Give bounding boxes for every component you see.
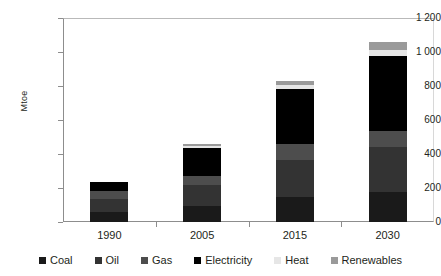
y-axis-tick-mark (58, 222, 63, 223)
x-axis-tick-label: 1990 (69, 229, 149, 241)
bar-1990[interactable] (90, 182, 128, 222)
y-axis-title: Mtoe (19, 71, 29, 131)
bar-segment-renewables (369, 42, 407, 51)
stacked-bar-chart: Mtoe 02004006008001 0001 200 19902005201… (0, 0, 441, 276)
x-axis-tick-mark (156, 222, 157, 227)
legend-label: Heat (285, 255, 308, 266)
legend-label: Gas (152, 255, 172, 266)
chart-legend: CoalOilGasElectricityHeatRenewables (0, 255, 441, 266)
bar-segment-coal (276, 197, 314, 223)
legend-label: Coal (50, 255, 73, 266)
bar-segment-electricity (183, 148, 221, 176)
bar-segment-oil (276, 160, 314, 197)
legend-swatch-icon (141, 257, 148, 264)
bar-segment-oil (369, 147, 407, 192)
legend-swatch-icon (331, 257, 338, 264)
legend-item-coal[interactable]: Coal (39, 255, 73, 266)
bar-segment-gas (369, 131, 407, 147)
legend-swatch-icon (95, 257, 102, 264)
legend-item-electricity[interactable]: Electricity (194, 255, 252, 266)
bar-segment-electricity (276, 89, 314, 144)
bar-segment-coal (369, 192, 407, 222)
x-axis-tick-label: 2005 (162, 229, 242, 241)
bar-segment-electricity (90, 182, 128, 191)
bar-segment-oil (90, 199, 128, 212)
bar-segment-coal (183, 206, 221, 222)
legend-swatch-icon (194, 257, 201, 264)
legend-label: Electricity (205, 255, 252, 266)
legend-item-gas[interactable]: Gas (141, 255, 172, 266)
legend-swatch-icon (274, 257, 281, 264)
bar-segment-oil (183, 185, 221, 205)
legend-label: Renewables (342, 255, 403, 266)
bar-2030[interactable] (369, 42, 407, 222)
bar-segment-gas (90, 191, 128, 199)
legend-label: Oil (106, 255, 119, 266)
legend-item-heat[interactable]: Heat (274, 255, 308, 266)
legend-item-renewables[interactable]: Renewables (331, 255, 403, 266)
bar-segment-coal (90, 212, 128, 222)
x-axis-tick-mark (341, 222, 342, 227)
bar-2015[interactable] (276, 81, 314, 222)
bar-segment-gas (276, 144, 314, 160)
bar-segment-electricity (369, 56, 407, 131)
legend-item-oil[interactable]: Oil (95, 255, 119, 266)
x-axis-tick-label: 2030 (348, 229, 428, 241)
bar-2005[interactable] (183, 144, 221, 222)
bars-layer (63, 18, 434, 222)
bar-segment-gas (183, 176, 221, 185)
x-axis-tick-mark (249, 222, 250, 227)
legend-swatch-icon (39, 257, 46, 264)
x-axis-tick-label: 2015 (255, 229, 335, 241)
